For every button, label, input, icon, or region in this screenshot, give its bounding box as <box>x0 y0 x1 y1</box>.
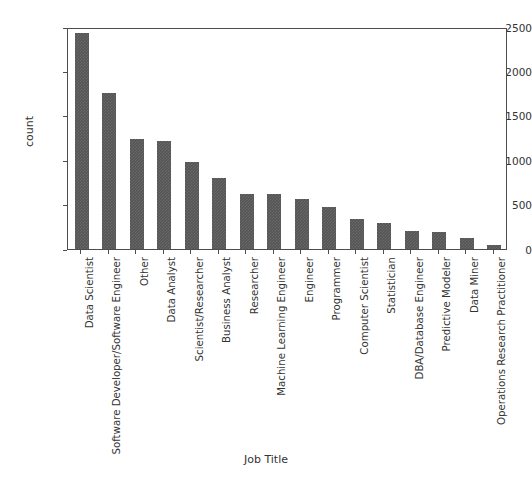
bar <box>240 194 254 250</box>
bar <box>460 238 474 249</box>
bar <box>185 162 199 249</box>
x-tick-label: Statistician <box>387 257 397 314</box>
x-tick-label: Machine Learning Engineer <box>277 257 287 396</box>
x-tick-label: Researcher <box>250 257 260 314</box>
x-tick-mark <box>108 250 109 254</box>
x-tick-label: Engineer <box>305 257 315 302</box>
x-tick-label: Data Miner <box>470 257 480 313</box>
bar <box>130 139 144 249</box>
bars-layer <box>68 29 506 249</box>
x-tick-mark <box>465 250 466 254</box>
bar <box>322 207 336 249</box>
x-tick-label: Programmer <box>332 257 342 320</box>
x-tick-label: Operations Research Practitioner <box>497 257 507 425</box>
x-tick-mark <box>135 250 136 254</box>
bar <box>350 219 364 249</box>
plot-area <box>67 28 507 250</box>
x-tick-mark <box>163 250 164 254</box>
x-tick-label: Other <box>140 257 150 286</box>
x-tick-mark <box>410 250 411 254</box>
bar <box>432 232 446 249</box>
bar <box>102 93 116 249</box>
x-tick-label: Data Scientist <box>85 257 95 328</box>
x-tick-mark <box>383 250 384 254</box>
bar <box>295 199 309 249</box>
bar <box>212 178 226 249</box>
x-tick-mark <box>493 250 494 254</box>
x-tick-mark <box>328 250 329 254</box>
x-tick-label: Software Developer/Software Engineer <box>112 257 122 455</box>
bar <box>377 223 391 249</box>
x-tick-label: Scientist/Researcher <box>195 257 205 361</box>
x-tick-label: Predictive Modeler <box>442 257 452 352</box>
x-tick-label: Computer Scientist <box>360 257 370 355</box>
x-tick-mark <box>190 250 191 254</box>
x-axis-title: Job Title <box>0 453 532 466</box>
x-tick-label: Business Analyst <box>222 257 232 343</box>
x-tick-mark <box>273 250 274 254</box>
x-tick-label: Data Analyst <box>167 257 177 322</box>
x-tick-mark <box>355 250 356 254</box>
bar <box>405 231 419 249</box>
bar <box>267 194 281 250</box>
x-tick-label: DBA/Database Engineer <box>415 257 425 379</box>
bar <box>157 141 171 249</box>
bar <box>487 245 501 249</box>
x-tick-mark <box>80 250 81 254</box>
x-tick-mark <box>245 250 246 254</box>
x-tick-mark <box>300 250 301 254</box>
x-tick-mark <box>438 250 439 254</box>
bar-chart-figure: count 05001000150020002500 Data Scientis… <box>0 0 532 499</box>
bar <box>75 33 89 249</box>
x-tick-mark <box>218 250 219 254</box>
